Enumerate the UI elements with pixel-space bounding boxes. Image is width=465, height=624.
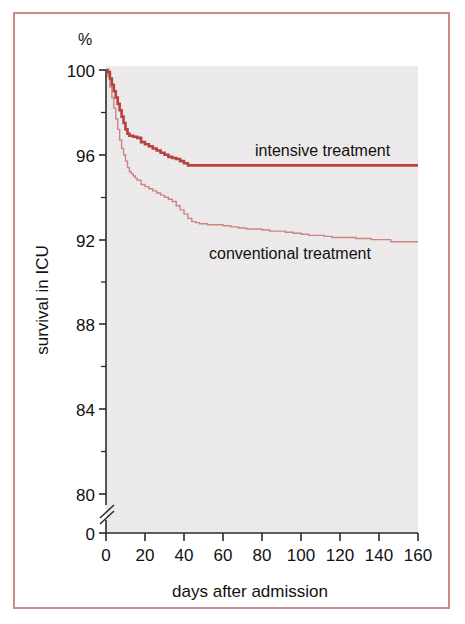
y-tick-label-origin: 0: [86, 525, 95, 544]
figure-container: 100 96 92 88 84 80 0 % 0 20 40 60 80 100…: [0, 0, 465, 624]
y-tick-label-92: 92: [76, 232, 95, 251]
x-tick-label-160: 160: [404, 546, 432, 565]
x-major-ticks: [106, 533, 418, 541]
y-tick-label-80: 80: [76, 486, 95, 505]
x-tick-label-100: 100: [287, 546, 315, 565]
y-tick-label-96: 96: [76, 147, 95, 166]
y-axis-unit-label: %: [78, 31, 92, 48]
plot-area-background: [106, 66, 418, 533]
y-axis-title: survival in ICU: [33, 245, 52, 355]
x-tick-label-20: 20: [136, 546, 155, 565]
y-tick-label-100: 100: [67, 62, 95, 81]
x-tick-label-80: 80: [253, 546, 272, 565]
x-tick-label-140: 140: [365, 546, 393, 565]
y-tick-label-88: 88: [76, 316, 95, 335]
x-tick-label-60: 60: [214, 546, 233, 565]
x-tick-label-0: 0: [101, 546, 110, 565]
x-tick-label-120: 120: [326, 546, 354, 565]
survival-chart: 100 96 92 88 84 80 0 % 0 20 40 60 80 100…: [0, 0, 465, 624]
y-major-ticks: [99, 70, 106, 533]
x-axis-title: days after admission: [172, 582, 328, 601]
y-tick-label-84: 84: [76, 401, 95, 420]
intensive-treatment-label: intensive treatment: [255, 142, 391, 159]
conventional-treatment-label: conventional treatment: [209, 245, 371, 262]
x-tick-label-40: 40: [175, 546, 194, 565]
